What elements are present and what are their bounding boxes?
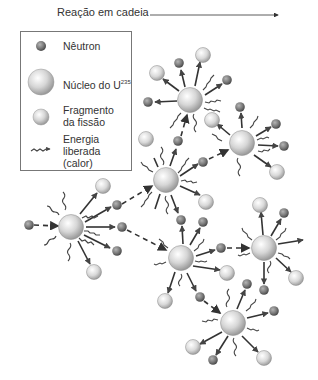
legend: Nêutron Núcleo do U235 Fragmento da fiss… [20,31,132,171]
neutron-icon [36,41,46,51]
nucleus-n5 [169,246,194,271]
nucleus-n7 [221,311,246,336]
legend-label-fragment: Fragmento da fissão [63,104,114,128]
nucleus-n3 [178,88,203,113]
legend-icons [21,32,61,170]
nucleus-n1 [59,215,84,240]
legend-label-energy: Energia liberada (calor) [63,133,100,169]
nucleus-n4 [230,131,255,156]
fission-fragment-icon [33,109,49,125]
nucleus-n2 [154,168,179,193]
legend-label-neutron: Nêutron [63,40,100,52]
nucleus-n6 [252,236,277,261]
uranium-nucleus-icon [28,69,54,95]
energy-wave-icon [31,149,50,151]
legend-label-nucleus: Núcleo do U235 [63,76,131,91]
diagram-title: Reação em cadeia [57,6,149,18]
